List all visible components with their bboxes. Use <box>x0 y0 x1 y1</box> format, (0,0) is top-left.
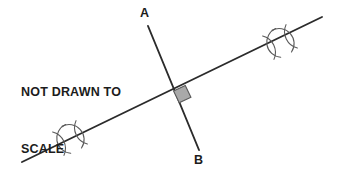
arc-mark-right <box>262 23 299 60</box>
note-line-1: NOT DRAWN TO <box>21 83 121 102</box>
note-line-2: SCALE <box>21 140 121 159</box>
not-to-scale-note: NOT DRAWN TO SCALE <box>21 45 121 177</box>
geometry-diagram: NOT DRAWN TO SCALE A B <box>0 0 338 177</box>
point-label-b: B <box>194 153 203 167</box>
arc-right-a <box>263 33 280 59</box>
segment-ab-line <box>148 26 199 150</box>
point-label-a: A <box>140 6 149 20</box>
